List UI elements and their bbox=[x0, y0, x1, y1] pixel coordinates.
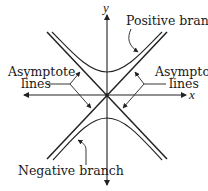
positive-branch-label: Positive branch bbox=[126, 13, 208, 28]
negative-branch-label: Negative branch bbox=[18, 163, 124, 178]
y-axis-label: y bbox=[101, 0, 109, 15]
asymptote-right-leader bbox=[135, 72, 144, 84]
asymptote-left-label: lines bbox=[21, 76, 51, 91]
asymptote-left-leader bbox=[70, 84, 91, 108]
positive-branch-leader bbox=[129, 29, 138, 52]
asymptote-right-label: lines bbox=[169, 76, 199, 91]
asymptote-right-leader bbox=[123, 84, 144, 108]
hyperbola-diagram: y x Positive branch Negative branch Asym… bbox=[0, 0, 208, 191]
negative-branch-leader bbox=[78, 140, 86, 165]
